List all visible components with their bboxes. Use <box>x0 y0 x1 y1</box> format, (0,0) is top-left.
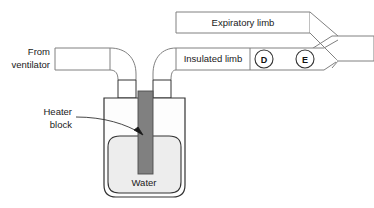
ventilator-humidifier-diagram: D E Water <box>0 0 374 208</box>
ventilator-elbow-outer <box>110 48 136 80</box>
diagram-canvas: D E Water <box>0 0 374 208</box>
chamber-neck-right <box>153 80 171 98</box>
marker-e-letter: E <box>302 55 308 65</box>
ventilator-elbow-inner <box>110 70 118 80</box>
insulated-limb-label: Insulated limb <box>184 53 243 64</box>
water-label: Water <box>132 177 157 188</box>
insulated-elbow-inner <box>171 70 176 80</box>
from-ventilator-label-line1: From <box>28 46 50 57</box>
chamber-neck-left <box>118 80 136 98</box>
inspiratory-tube-from-ventilator <box>55 48 136 80</box>
heater-block-label-line2: block <box>50 119 72 130</box>
heater-block-label-line1: Heater <box>43 106 72 117</box>
expiratory-limb-label: Expiratory limb <box>212 17 275 28</box>
marker-d-letter: D <box>261 55 268 65</box>
insulated-elbow-outer <box>153 48 176 80</box>
from-ventilator-label-line2: ventilator <box>11 59 50 70</box>
chamber-to-insulated-limb-elbow <box>153 48 176 80</box>
ventilator-tube-body <box>55 48 110 70</box>
